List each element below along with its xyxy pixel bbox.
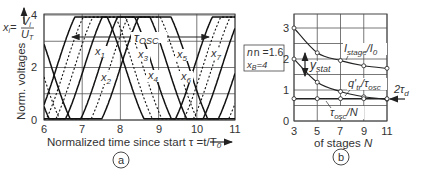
- b-data-point: [339, 97, 343, 101]
- y-tick-2: 2: [31, 61, 37, 73]
- panel-b-x-axis-title: of stages N: [314, 137, 373, 149]
- x-tick-10: 10: [191, 123, 203, 135]
- parameter-box: nn =1.6 xB=4: [244, 45, 284, 71]
- b-x-tick-9: 9: [361, 125, 367, 137]
- b-data-point: [315, 80, 319, 84]
- b-x-tick-11: 11: [381, 125, 392, 137]
- param-n: nn =1.6: [247, 46, 283, 58]
- panel-a-y-axis-title: Norm. voltages: [15, 42, 27, 120]
- b-data-point: [362, 64, 366, 68]
- x-tick-6: 6: [41, 123, 47, 135]
- figure: τOSC x1x2x3x4x5x6x7 4 2 0 6 7 8 9 10 11 …: [0, 0, 422, 177]
- b-y-tick-0: 0: [283, 115, 289, 127]
- b-data-point: [362, 97, 366, 101]
- b-data-point: [315, 97, 319, 101]
- b-data-point: [385, 97, 389, 101]
- x-tick-7: 7: [79, 123, 85, 135]
- panel-a-badge-label: a: [118, 154, 125, 166]
- b-data-point: [315, 51, 319, 55]
- b-y-tick-2: 2: [283, 53, 289, 65]
- panel-b-badge-label: b: [338, 151, 344, 163]
- b-data-point: [339, 59, 343, 63]
- b-x-tick-5: 5: [314, 125, 320, 137]
- panel-a: τOSC x1x2x3x4x5x6x7 4 2 0 6 7 8 9 10 11 …: [2, 8, 284, 168]
- b-data-point: [385, 66, 389, 70]
- b-data-point: [292, 26, 296, 30]
- panel-a-x-axis-title: Normalized time since start τ =t/T0: [47, 136, 222, 150]
- b-x-tick-3: 3: [291, 125, 297, 137]
- b-x-tick-7: 7: [337, 125, 343, 137]
- two-tau-d-label: 2τd: [393, 83, 409, 98]
- ystat-label: ystat: [309, 58, 331, 74]
- b-y-tick-3: 3: [283, 22, 289, 34]
- param-xb: xB=4: [246, 59, 267, 71]
- svg-text:UT: UT: [21, 28, 34, 41]
- series-labels: x1x2x3x4x5x6x7: [93, 45, 223, 86]
- svg-text:xi=: xi=: [2, 21, 17, 34]
- x-tick-9: 9: [156, 123, 162, 135]
- panel-b: ystat Istage/I0 q'tr/τosc τosc/N 2τd 3 2…: [283, 14, 409, 165]
- b-y-tick-1: 1: [283, 84, 289, 96]
- b-data-point: [292, 57, 296, 61]
- y-tick-0: 0: [31, 114, 37, 126]
- b-data-point: [339, 90, 343, 94]
- b-data-point: [292, 97, 296, 101]
- x-tick-11: 11: [229, 123, 240, 135]
- y-axis-formula: xi= Vi UT: [2, 15, 34, 41]
- x-tick-8: 8: [117, 123, 123, 135]
- y-tick-4: 4: [31, 9, 37, 21]
